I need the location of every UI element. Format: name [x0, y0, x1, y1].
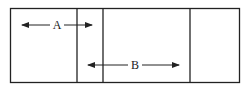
outer-box [11, 9, 240, 83]
arrow-b-label: B [131, 58, 139, 72]
arrow-a: A [22, 18, 92, 32]
diagram-canvas: A B [0, 0, 249, 87]
arrow-a-label: A [53, 18, 62, 32]
arrow-b: B [88, 58, 179, 72]
